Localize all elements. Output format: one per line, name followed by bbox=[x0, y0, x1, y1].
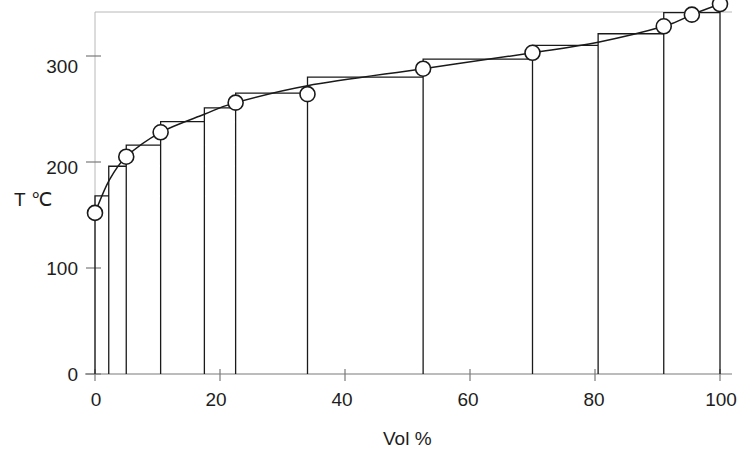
y-tick-label-100: 100 bbox=[20, 258, 78, 280]
x-tick-label-100: 100 bbox=[700, 389, 742, 411]
curve-point-markers bbox=[88, 0, 728, 220]
x-tick-label-0: 0 bbox=[86, 389, 106, 411]
x-tick-label-40: 40 bbox=[326, 389, 358, 411]
axis-lines bbox=[85, 56, 732, 381]
plot-frame bbox=[95, 12, 732, 374]
cut-step-bars bbox=[95, 13, 720, 374]
y-tick-label-200: 200 bbox=[20, 157, 78, 179]
x-tick-label-60: 60 bbox=[452, 389, 484, 411]
tbp-curve-line bbox=[95, 4, 720, 213]
distillation-curve-chart: 300 200 100 0 T ℃ 0 20 40 60 80 100 Vol … bbox=[0, 0, 755, 465]
y-tick-label-0: 0 bbox=[20, 364, 78, 386]
y-axis-title: T ℃ bbox=[14, 188, 52, 211]
x-tick-label-20: 20 bbox=[200, 389, 232, 411]
x-tick-label-80: 80 bbox=[578, 389, 610, 411]
chart-plot-area bbox=[0, 0, 755, 465]
y-tick-label-300: 300 bbox=[20, 56, 78, 78]
x-axis-title: Vol % bbox=[383, 428, 432, 450]
